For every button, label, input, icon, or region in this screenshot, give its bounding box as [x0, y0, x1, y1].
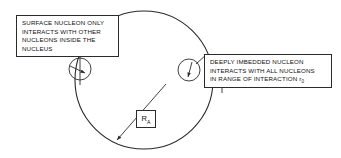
embedded-callout-line-2: INTERACTS WITH ALL NUCLEONS — [210, 67, 327, 76]
embedded-nucleon-circle — [178, 59, 200, 81]
surface-callout-line-2: INTERACTS WITH OTHER — [22, 28, 114, 37]
interaction-range-subscript: 0 — [301, 79, 304, 84]
surface-nucleon-interaction-arrow — [70, 66, 85, 73]
embedded-callout-line-1: DEEPLY IMBEDDED NUCLEON — [210, 58, 327, 67]
surface-callout-line-1: SURFACE NUCLEON ONLY — [22, 19, 114, 28]
embedded-nucleon-callout: DEEPLY IMBEDDED NUCLEON INTERACTS WITH A… — [204, 54, 332, 88]
embedded-callout-line-3: IN RANGE OF INTERACTION r0 — [210, 75, 327, 87]
nuclear-radius-label: RA — [136, 110, 156, 128]
embedded-nucleon-interaction-arrow — [188, 62, 192, 77]
radius-subscript: A — [147, 119, 150, 125]
embedded-callout-line-3-text: IN RANGE OF INTERACTION r — [210, 75, 301, 82]
surface-nucleon-callout: SURFACE NUCLEON ONLY INTERACTS WITH OTHE… — [16, 15, 119, 57]
nucleon-interaction-diagram: SURFACE NUCLEON ONLY INTERACTS WITH OTHE… — [0, 0, 341, 158]
surface-callout-line-4: NUCLEUS — [22, 45, 114, 54]
surface-callout-line-3: NUCLEONS INSIDE THE — [22, 36, 114, 45]
